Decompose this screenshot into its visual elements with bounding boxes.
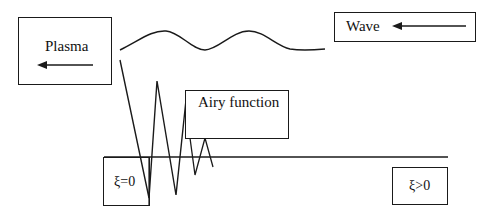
- wave-label: Wave: [346, 19, 380, 34]
- xi-positive-label: ξ>0: [409, 179, 430, 193]
- incident-wave-curve: [120, 31, 325, 50]
- plasma-label: Plasma: [45, 39, 88, 54]
- airy-function-label: Airy function: [198, 95, 279, 110]
- xi-zero-label: ξ=0: [114, 175, 135, 189]
- plasma-wave-diagram: Plasma Wave Airy function ξ=0 ξ>0: [0, 0, 488, 217]
